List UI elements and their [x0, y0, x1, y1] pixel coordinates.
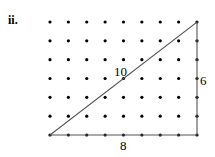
- grid-dot: [67, 96, 70, 99]
- grid-dot: [48, 39, 51, 42]
- grid-dot: [48, 58, 51, 61]
- grid-dot: [104, 58, 107, 61]
- grid-dot: [159, 39, 162, 42]
- grid-dot: [104, 77, 107, 80]
- base-length-label: 8: [120, 138, 127, 153]
- grid-dot: [122, 115, 125, 118]
- grid-dot: [140, 96, 143, 99]
- grid-dot: [85, 58, 88, 61]
- grid-dot: [104, 96, 107, 99]
- grid-dot: [85, 115, 88, 118]
- grid-dot: [159, 115, 162, 118]
- grid-dot: [48, 115, 51, 118]
- grid-dot: [159, 20, 162, 23]
- grid-dot: [67, 58, 70, 61]
- grid-dot: [140, 77, 143, 80]
- grid-dot: [67, 20, 70, 23]
- grid-dot: [85, 20, 88, 23]
- grid-dot: [177, 20, 180, 23]
- grid-dot: [48, 96, 51, 99]
- grid-dot: [85, 77, 88, 80]
- grid-dot: [104, 39, 107, 42]
- grid-dot: [48, 20, 51, 23]
- grid-dot: [177, 96, 180, 99]
- grid-dot: [159, 77, 162, 80]
- grid-dot: [122, 58, 125, 61]
- grid-dot: [122, 96, 125, 99]
- grid-dot: [122, 39, 125, 42]
- grid-dot: [177, 39, 180, 42]
- grid-dot: [140, 58, 143, 61]
- grid-dot: [122, 20, 125, 23]
- grid-dot: [104, 115, 107, 118]
- grid-dot: [104, 20, 107, 23]
- dot-grid-diagram: 10 6 8: [0, 0, 215, 157]
- grid-dot: [177, 115, 180, 118]
- grid-dot: [67, 115, 70, 118]
- grid-dot: [177, 58, 180, 61]
- grid-dot: [48, 77, 51, 80]
- grid-dot: [177, 77, 180, 80]
- hypotenuse-length-label: 10: [114, 64, 127, 79]
- grid-dot: [85, 39, 88, 42]
- grid-dot: [159, 96, 162, 99]
- grid-dot: [140, 39, 143, 42]
- grid-dot: [67, 77, 70, 80]
- grid-dot: [159, 58, 162, 61]
- grid-dot: [140, 115, 143, 118]
- grid-dot: [85, 96, 88, 99]
- grid-dot: [67, 39, 70, 42]
- vertical-side-length-label: 6: [200, 73, 207, 88]
- grid-dot: [140, 20, 143, 23]
